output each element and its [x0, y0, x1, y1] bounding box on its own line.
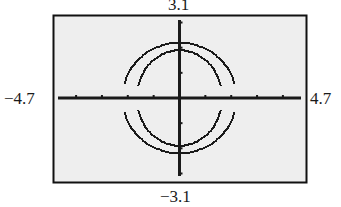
graph-screen	[0, 0, 341, 207]
x-tick	[256, 95, 258, 98]
x-tick	[101, 95, 103, 98]
x-tick	[153, 95, 155, 98]
y-tick	[180, 47, 183, 49]
y-tick	[180, 172, 183, 174]
x-tick	[204, 95, 206, 98]
y-tick	[180, 72, 183, 74]
y-tick	[180, 147, 183, 149]
y-tick	[180, 22, 183, 24]
x-tick	[75, 95, 77, 98]
x-tick	[127, 95, 129, 98]
y-tick	[180, 122, 183, 124]
x-tick	[230, 95, 232, 98]
x-tick	[282, 95, 284, 98]
